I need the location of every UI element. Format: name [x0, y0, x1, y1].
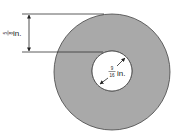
hole-diameter-unit: in.	[117, 69, 125, 78]
ring-width-unit: in.	[13, 29, 21, 38]
svg-text:16: 16	[109, 73, 115, 78]
ring-width-fraction: 5 8	[2, 31, 14, 36]
washer-diagram: 5 8 in. 9 16 in.	[0, 0, 177, 134]
washer-hole	[92, 51, 132, 91]
